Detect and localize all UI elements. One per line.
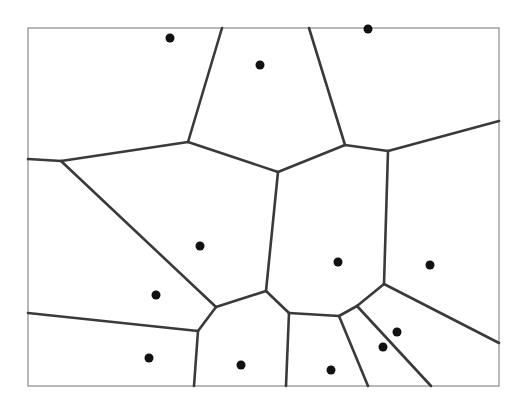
voronoi-edge: [289, 313, 339, 316]
voronoi-edge: [286, 313, 289, 386]
voronoi-edges: [28, 28, 499, 386]
voronoi-edge: [384, 151, 388, 284]
voronoi-edge: [345, 145, 388, 151]
voronoi-edge: [309, 28, 345, 145]
voronoi-edge: [28, 159, 61, 161]
voronoi-edge: [339, 316, 368, 386]
voronoi-edge: [384, 284, 499, 343]
site-point: [166, 34, 175, 43]
site-point: [393, 328, 402, 337]
voronoi-edge: [357, 306, 431, 386]
site-point: [364, 25, 373, 34]
voronoi-edge: [188, 142, 278, 172]
voronoi-edge: [278, 145, 345, 172]
site-point: [379, 343, 388, 352]
voronoi-edge: [266, 291, 289, 313]
voronoi-edge: [198, 307, 216, 331]
site-point: [145, 354, 154, 363]
site-point: [256, 61, 265, 70]
site-point: [334, 258, 343, 267]
voronoi-edge: [194, 331, 198, 386]
site-point: [327, 366, 336, 375]
voronoi-edge: [339, 306, 357, 316]
voronoi-edge: [188, 28, 222, 142]
voronoi-edge: [216, 291, 266, 307]
voronoi-edge: [266, 172, 278, 291]
voronoi-edge: [61, 161, 216, 307]
site-point: [196, 242, 205, 251]
voronoi-edge: [357, 284, 384, 306]
voronoi-edge: [61, 142, 188, 161]
voronoi-diagram: [0, 0, 527, 407]
site-point: [152, 291, 161, 300]
site-point: [237, 361, 246, 370]
site-point: [426, 261, 435, 270]
voronoi-edge: [388, 121, 499, 151]
voronoi-edge: [28, 313, 198, 331]
diagram-frame: [28, 28, 499, 386]
